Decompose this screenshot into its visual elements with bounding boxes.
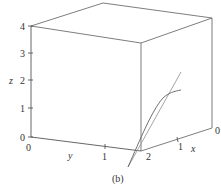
x-axis-label: x [190,143,196,154]
series-curve [128,90,181,167]
z-tick-label-3: 3 [20,48,25,59]
figure-caption: (b) [112,173,124,185]
box-edge-top-back-right [103,3,212,18]
y-axis-line [31,137,141,151]
y-tick-label-1: 1 [102,151,107,162]
z-tick-label-4: 4 [20,21,25,32]
y-axis-label: y [67,150,73,161]
3d-line-plot: 4 3 2 1 0 z 0 1 2 y 1 0 x (b) [0,0,221,187]
box-edge-top-back-left [31,3,103,26]
box-edge-top-front-right [141,18,212,43]
box-wireframe [31,3,212,151]
box-edge-top-front-left [31,26,141,43]
y-tick-label-2: 2 [146,151,151,162]
y-tick-label-0: 0 [26,142,31,153]
z-tick-label-1: 1 [20,103,25,114]
x-tick-label-0: 0 [215,125,220,136]
y-axis [31,137,141,151]
z-tick-label-2: 2 [20,75,25,86]
z-tick-label-0: 0 [20,132,25,143]
series-straight-line [128,72,181,167]
x-tick-label-1: 1 [178,141,183,152]
z-axis [28,26,33,137]
z-axis-label: z [8,75,13,86]
box-edge-bottom-right [141,128,212,151]
